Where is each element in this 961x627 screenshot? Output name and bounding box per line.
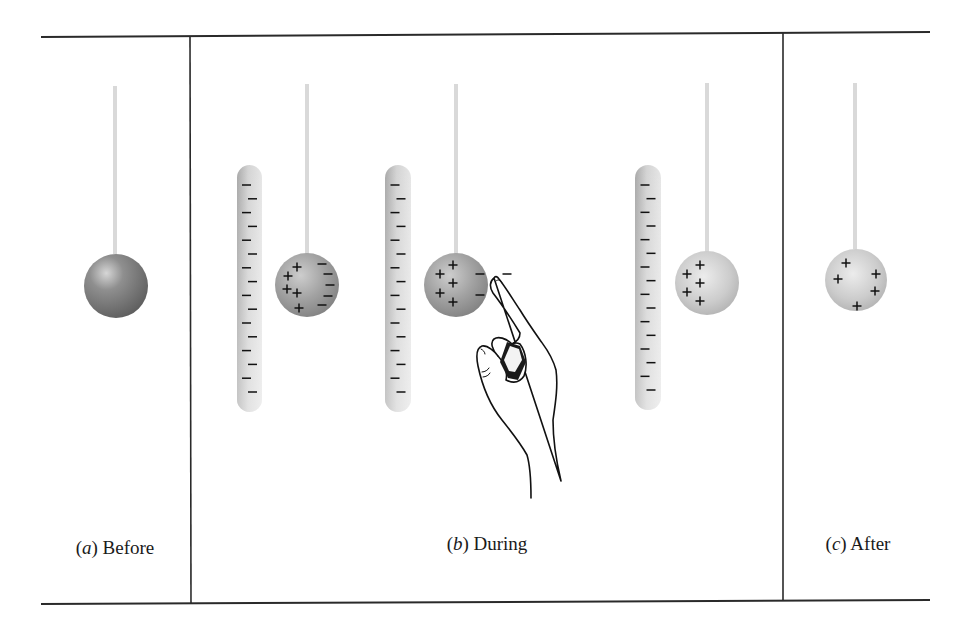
- bottom-rule: [41, 600, 930, 604]
- caption-a-text: Before: [98, 537, 154, 558]
- caption-c: (c) After: [826, 533, 891, 555]
- stage-3: [635, 83, 739, 410]
- caption-b-text: During: [469, 533, 528, 554]
- negatively-charged-rod: [385, 165, 411, 412]
- sphere: [675, 251, 739, 315]
- caption-b: (b) During: [447, 533, 528, 555]
- caption-c-letter: c: [832, 533, 840, 554]
- neutral-sphere: [84, 254, 148, 318]
- sphere: [275, 253, 339, 317]
- sphere: [424, 253, 488, 317]
- panel-a-before: [84, 86, 148, 318]
- top-rule: [41, 32, 930, 37]
- divider-a-b: [190, 36, 191, 603]
- caption-a-letter: a: [82, 537, 92, 558]
- panel-b-during: [237, 83, 739, 498]
- caption-c-text: After: [847, 533, 891, 554]
- caption-b-letter: b: [453, 533, 463, 554]
- negatively-charged-rod: [237, 165, 262, 412]
- caption-a: (a) Before: [76, 537, 155, 559]
- frame: [41, 32, 930, 604]
- negatively-charged-rod: [635, 165, 661, 410]
- panel-c-after: [825, 83, 887, 311]
- positively-charged-sphere: [825, 249, 887, 311]
- hand-icon: [477, 277, 561, 498]
- stage-1: [237, 84, 339, 412]
